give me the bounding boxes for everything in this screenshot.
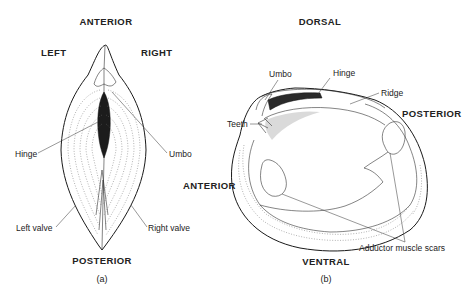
caption-a: (a) (97, 274, 108, 284)
pallial-sinus (260, 152, 388, 211)
leader-hinge-b (318, 78, 330, 94)
label-a-left: LEFT (41, 47, 66, 58)
leader-umbo-a (112, 92, 167, 153)
anterior-adductor-scar (260, 160, 286, 197)
posterior-adductor-scar (382, 122, 405, 155)
label-b-anterior: ANTERIOR (183, 180, 236, 191)
figure-b-clam-interior-view (231, 88, 427, 251)
label-b-teeth: Teeth (227, 119, 248, 129)
label-b-umbo: Umbo (269, 69, 292, 79)
caption-b: (b) (321, 274, 332, 284)
label-a-hinge: Hinge (15, 149, 37, 159)
label-right-valve: Right valve (148, 223, 190, 233)
label-b-posterior: POSTERIOR (402, 108, 462, 119)
figure-a-clam-dorsal-view (61, 45, 146, 250)
label-b-ridge: Ridge (381, 88, 403, 98)
leader-scar-posterior (390, 153, 405, 242)
label-left-valve: Left valve (16, 223, 53, 233)
label-b-dorsal: DORSAL (299, 16, 342, 27)
hinge-ligament-a (98, 92, 111, 158)
leader-scar-anterior (282, 194, 405, 242)
label-b-ventral: VENTRAL (302, 256, 350, 267)
umbo-a-region (94, 68, 116, 86)
label-adductor-muscle-scars: Adductor muscle scars (359, 243, 445, 253)
label-a-posterior: POSTERIOR (72, 255, 132, 266)
label-a-right: RIGHT (141, 47, 173, 58)
leader-left-valve (56, 205, 76, 227)
label-b-hinge: Hinge (333, 68, 355, 78)
clam-anatomy-figure: ANTERIOR LEFT RIGHT Hinge Umbo Left valv… (0, 0, 469, 296)
label-a-anterior: ANTERIOR (80, 16, 133, 27)
leader-right-valve (131, 205, 147, 227)
label-a-umbo: Umbo (169, 149, 192, 159)
